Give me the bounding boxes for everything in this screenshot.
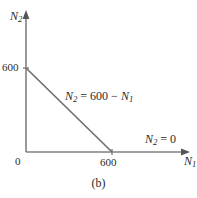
constraint-line <box>26 68 112 152</box>
y-axis-arrowhead <box>23 10 30 19</box>
x-axis-label-base: N <box>184 154 192 168</box>
y-axis-tick-label-600: 600 <box>2 62 19 73</box>
y-axis-label-subscript: 2 <box>18 14 22 24</box>
equation-equals: = 600 − <box>77 89 121 103</box>
figure-caption: (b) <box>0 176 197 191</box>
y-axis-label: N2 <box>10 10 22 24</box>
x-axis-label: N1 <box>184 155 196 169</box>
y-axis-label-base: N <box>10 9 18 23</box>
equation-rhs-base: N <box>121 89 129 103</box>
equation-lhs-base: N <box>65 89 73 103</box>
zero-line-equation-label: N2 = 0 <box>145 133 176 147</box>
equation-rhs-subscript: 1 <box>129 94 133 104</box>
x-axis-label-subscript: 1 <box>192 159 196 169</box>
zero-label-base: N <box>145 132 153 146</box>
x-axis-tick-label-600: 600 <box>100 157 117 168</box>
zero-label-equals: = 0 <box>157 132 176 146</box>
figure-panel-b: N2 N1 600 0 600 N2 = 600 − N1 N2 = 0 (b) <box>0 0 197 198</box>
constraint-line-equation-label: N2 = 600 − N1 <box>65 90 133 104</box>
origin-label: 0 <box>15 156 21 167</box>
